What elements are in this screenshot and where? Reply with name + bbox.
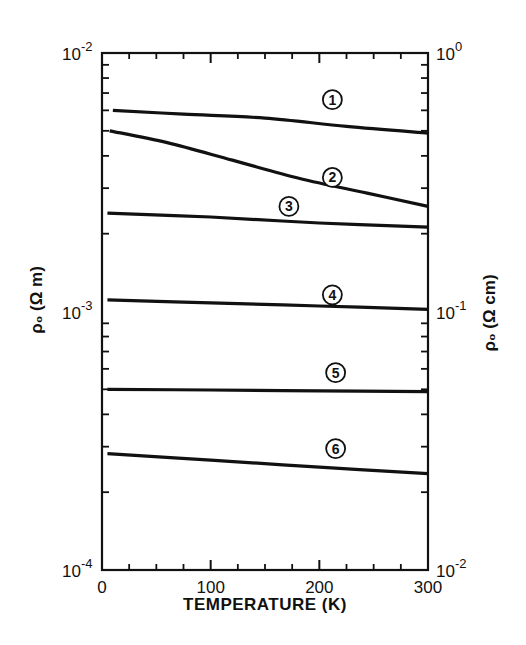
y-right-tick-label: 100 (436, 39, 462, 64)
curve-label-6: 6 (332, 441, 340, 457)
curve-5 (107, 389, 428, 391)
x-axis-label: TEMPERATURE (K) (183, 595, 347, 614)
curve-label-4: 4 (328, 287, 336, 303)
curve-1 (113, 110, 428, 133)
curve-label-2: 2 (328, 169, 336, 185)
curve-4 (107, 300, 428, 309)
y-axis-label-left: ρ₀ (Ω m) (27, 266, 46, 334)
curve-3 (107, 213, 428, 227)
curve-2 (110, 131, 428, 207)
y-right-tick-label: 10-1 (436, 298, 466, 323)
curve-labels: 123456 (279, 90, 345, 458)
curve-label-1: 1 (328, 92, 336, 108)
y-axis-label-right: ρ₀ (Ω cm) (480, 274, 499, 351)
y-right-tick-label: 10-2 (436, 556, 466, 581)
curve-label-5: 5 (332, 365, 340, 381)
y-left-tick-label: 10-2 (62, 39, 92, 64)
x-tick-label: 0 (97, 578, 106, 597)
y-left-tick-label: 10-3 (62, 298, 92, 323)
curve-6 (107, 454, 428, 474)
y-left-tick-label: 10-4 (62, 556, 92, 581)
curve-label-3: 3 (285, 198, 293, 214)
plot-axes: 010020030010-210-310-410010-110-2 (62, 39, 466, 597)
chart: 010020030010-210-310-410010-110-2 123456… (0, 0, 526, 645)
data-curves (107, 110, 428, 473)
